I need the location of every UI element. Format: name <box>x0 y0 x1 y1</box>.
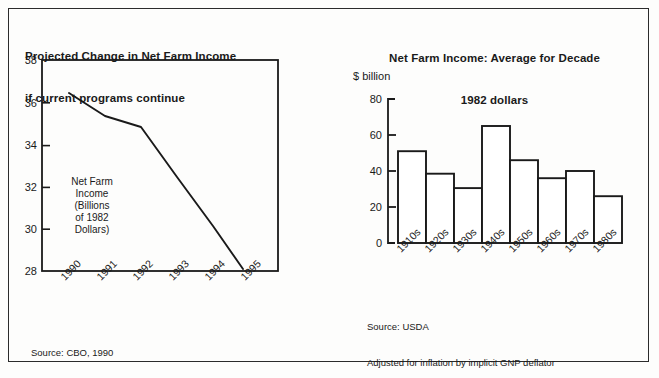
left-chart-panel: Projected Change in Net Farm Income if c… <box>9 9 339 361</box>
bar-y-ticks <box>388 135 396 207</box>
line-chart-svg: 38 36 34 32 30 28 1990 1991 1992 1993 19… <box>9 9 339 363</box>
line-xtick-1994: 1994 <box>202 257 227 282</box>
figure-canvas: Projected Change in Net Farm Income if c… <box>0 0 659 378</box>
annotation-line-3: (Billions <box>74 200 109 211</box>
left-chart-source: Source: CBO, 1990 <box>31 347 113 359</box>
bar-ytick-60: 60 <box>370 129 382 141</box>
line-xtick-1992: 1992 <box>130 257 155 282</box>
right-chart-panel: Net Farm Income: Average for Decade 1982… <box>339 9 650 361</box>
bar-ytick-20: 20 <box>370 201 382 213</box>
right-source-line1: Source: USDA <box>367 321 555 333</box>
right-source-line2: Adjusted for inflation by implicit GNP d… <box>367 357 555 369</box>
bar-y-tick-labels: 80 60 40 20 0 <box>370 93 382 249</box>
bar-ytick-80: 80 <box>370 93 382 105</box>
line-ytick-36: 36 <box>25 97 37 109</box>
right-chart-source: Source: USDA Adjusted for inflation by i… <box>367 297 555 378</box>
annotation-line-4: of 1982 <box>75 212 109 223</box>
annotation-line-5: Dollars) <box>75 224 109 235</box>
line-xtick-1993: 1993 <box>166 257 191 282</box>
line-ytick-32: 32 <box>25 181 37 193</box>
line-y-ticks <box>42 103 50 229</box>
line-xtick-1990: 1990 <box>58 257 83 282</box>
bar-ytick-40: 40 <box>370 165 382 177</box>
line-xtick-1995: 1995 <box>238 257 263 282</box>
bar-series-net-farm-income <box>398 126 622 243</box>
line-ytick-30: 30 <box>25 223 37 235</box>
line-ytick-34: 34 <box>25 139 37 151</box>
bar-1940s <box>482 126 510 243</box>
bar-ytick-0: 0 <box>376 237 382 249</box>
figure-border: Projected Change in Net Farm Income if c… <box>8 8 649 362</box>
line-x-tick-labels: 1990 1991 1992 1993 1994 1995 <box>58 257 263 282</box>
line-plot-frame <box>42 60 278 271</box>
annotation-line-2: Income <box>76 188 109 199</box>
annotation-line-1: Net Farm <box>71 176 113 187</box>
line-ytick-28: 28 <box>25 265 37 277</box>
line-y-tick-labels: 38 36 34 32 30 28 <box>25 54 37 277</box>
line-chart-annotation: Net Farm Income (Billions of 1982 Dollar… <box>71 176 113 235</box>
line-xtick-1991: 1991 <box>94 257 119 282</box>
line-ytick-38: 38 <box>25 54 37 66</box>
bar-axis-caption: $ billion <box>353 70 390 82</box>
